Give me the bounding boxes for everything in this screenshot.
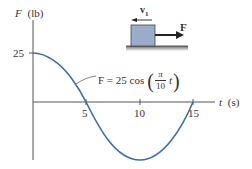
fraction-denominator: 10 xyxy=(156,82,165,91)
fraction: π 10 xyxy=(155,70,166,91)
x-axis-var: t xyxy=(219,96,222,108)
ground-surface xyxy=(126,46,188,51)
block xyxy=(131,25,155,46)
y-axis-label: F (lb) xyxy=(15,8,43,19)
x-tick-label-10: 10 xyxy=(134,108,145,119)
equation-label: F = 25 cos ( π 10 t ) xyxy=(98,70,180,91)
equation-leader-line xyxy=(76,76,96,84)
fraction-numerator: π xyxy=(158,70,163,79)
left-paren: ( xyxy=(147,71,154,91)
y-axis-unit: (lb) xyxy=(27,7,43,19)
velocity-label: v1 xyxy=(140,5,149,18)
right-paren: ) xyxy=(173,71,180,91)
x-tick-label-5: 5 xyxy=(82,108,88,119)
y-tick-label-25: 25 xyxy=(13,48,24,59)
equation-lhs: F = 25 cos xyxy=(98,75,144,86)
x-axis-label: t (s) xyxy=(219,97,239,108)
y-axis-var: F xyxy=(15,7,22,19)
force-label: F xyxy=(180,22,187,33)
x-tick-label-15: 15 xyxy=(188,108,199,119)
velocity-arrow-head xyxy=(131,18,137,22)
velocity-subscript: 1 xyxy=(145,10,149,18)
equation-var: t xyxy=(169,75,172,86)
x-axis-unit: (s) xyxy=(228,96,240,108)
